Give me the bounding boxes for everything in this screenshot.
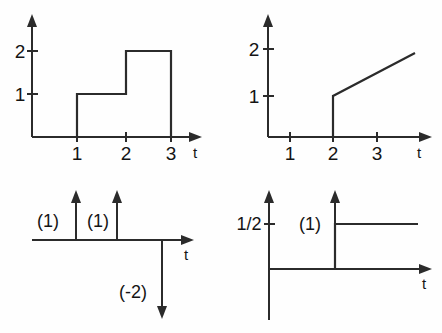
x-ticklabel-1: 1: [72, 143, 83, 164]
impulse-weight-label-3: (-2): [119, 282, 147, 302]
x-ticklabel-2: 2: [121, 143, 132, 164]
impulse-arrowhead-1: [330, 190, 340, 203]
x-axis-arrowhead: [419, 264, 432, 274]
x-ticklabel-3: 3: [372, 143, 383, 164]
x-axis-arrowhead: [181, 235, 194, 245]
plot-top-left-canvas: 1 2 1 2 3 t: [0, 0, 221, 167]
x-ticklabel-1: 1: [285, 143, 296, 164]
y-ticklabel-2: 2: [15, 41, 26, 62]
x-axis-arrowhead: [419, 132, 432, 142]
plot-bottom-left-canvas: (1) (1) (-2) t: [0, 167, 221, 333]
impulse-arrowhead-2: [112, 190, 122, 203]
x-ticklabel-2: 2: [328, 143, 339, 164]
plot-top-right-canvas: 1 2 1 2 3 t: [221, 0, 442, 167]
y-axis-arrowhead: [264, 190, 274, 203]
x-ticklabel-3: 3: [166, 143, 177, 164]
y-axis-arrowhead: [27, 14, 37, 27]
y-ticklabel-2: 2: [249, 39, 260, 60]
x-axis-label: t: [422, 275, 427, 292]
y-ticklabel-1: 1: [15, 84, 26, 105]
signal-curve: [333, 53, 415, 137]
plot-bottom-right-canvas: 1/2 (1) t: [221, 167, 442, 333]
impulse-weight-label-2: (1): [87, 211, 109, 231]
x-axis-label: t: [193, 144, 198, 161]
plot-top-left: 1 2 1 2 3 t: [0, 0, 221, 167]
x-axis-label: t: [184, 246, 189, 263]
impulse-arrowhead-1: [71, 190, 81, 203]
y-ticklabel-half: 1/2: [236, 214, 261, 234]
impulse-weight-label-1: (1): [37, 211, 59, 231]
y-ticklabel-1: 1: [249, 86, 260, 107]
impulse-arrowhead-3: [157, 306, 167, 319]
signal-curve: [32, 51, 194, 137]
y-axis-arrowhead: [263, 14, 273, 27]
x-axis-label: t: [417, 144, 422, 161]
plot-bottom-right: 1/2 (1) t: [221, 167, 442, 333]
impulse-weight-label-1: (1): [299, 214, 321, 234]
signal-curve: [269, 224, 418, 269]
plot-bottom-left: (1) (1) (-2) t: [0, 167, 221, 333]
plot-top-right: 1 2 1 2 3 t: [221, 0, 442, 167]
figure-sheet: 1 2 1 2 3 t 1 2 1 2 3 t: [0, 0, 442, 333]
